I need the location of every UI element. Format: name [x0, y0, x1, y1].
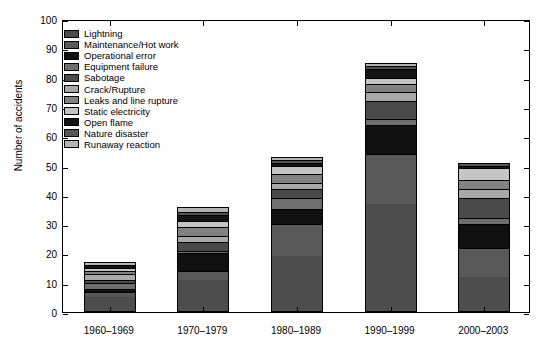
- y-tick-mark: [524, 80, 529, 81]
- chart-figure: Number of accidents 01020304050607080901…: [0, 0, 546, 348]
- x-tick-mark: [391, 21, 392, 26]
- legend-label: Lightning: [84, 28, 123, 39]
- legend-swatch-icon: [64, 118, 79, 126]
- legend-item: Sabotage: [64, 72, 179, 83]
- legend-item: Leaks and line rupture: [64, 95, 179, 106]
- bar-outline: [365, 63, 417, 312]
- bar-outline: [84, 262, 136, 312]
- y-tick-label: 20: [0, 249, 62, 260]
- legend-swatch-icon: [64, 63, 79, 71]
- y-tick-mark: [63, 197, 68, 198]
- y-tick-mark: [524, 168, 529, 169]
- x-tick-mark: [110, 21, 111, 26]
- x-tick-label: 1980–1989: [271, 325, 321, 336]
- y-tick-mark: [524, 50, 529, 51]
- legend-label: Open flame: [84, 117, 133, 128]
- y-tick-label: 30: [0, 220, 62, 231]
- legend-label: Operational error: [84, 50, 156, 61]
- x-tick-mark: [203, 307, 204, 312]
- y-tick-mark: [63, 285, 68, 286]
- x-tick-label: 1960–1969: [84, 325, 134, 336]
- legend-label: Maintenance/Hot work: [84, 39, 179, 50]
- y-tick-mark: [524, 138, 529, 139]
- legend-item: Static electricity: [64, 106, 179, 117]
- y-tick-mark: [63, 314, 68, 315]
- legend: LightningMaintenance/Hot workOperational…: [64, 28, 179, 150]
- legend-label: Leaks and line rupture: [84, 95, 178, 106]
- y-tick-mark: [524, 314, 529, 315]
- x-tick-mark: [297, 307, 298, 312]
- y-tick-label: 90: [0, 44, 62, 55]
- y-tick-label: 10: [0, 278, 62, 289]
- legend-swatch-icon: [64, 41, 79, 49]
- x-tick-mark: [110, 307, 111, 312]
- legend-item: Equipment failure: [64, 61, 179, 72]
- x-tick-mark: [203, 21, 204, 26]
- legend-item: Runaway reaction: [64, 139, 179, 150]
- y-tick-mark: [524, 226, 529, 227]
- y-tick-mark: [524, 285, 529, 286]
- y-tick-mark: [63, 255, 68, 256]
- y-tick-label: 60: [0, 132, 62, 143]
- y-tick-mark: [524, 255, 529, 256]
- legend-label: Equipment failure: [84, 61, 158, 72]
- legend-swatch-icon: [64, 140, 79, 148]
- y-tick-label: 0: [0, 308, 62, 319]
- legend-label: Static electricity: [84, 106, 150, 117]
- y-tick-mark: [524, 21, 529, 22]
- y-tick-mark: [524, 197, 529, 198]
- legend-item: Open flame: [64, 117, 179, 128]
- y-tick-mark: [63, 226, 68, 227]
- legend-swatch-icon: [64, 74, 79, 82]
- legend-label: Nature disaster: [84, 128, 148, 139]
- legend-swatch-icon: [64, 85, 79, 93]
- y-tick-mark: [63, 168, 68, 169]
- legend-item: Crack/Rupture: [64, 83, 179, 94]
- legend-label: Sabotage: [84, 72, 125, 83]
- x-tick-mark: [484, 307, 485, 312]
- legend-item: Maintenance/Hot work: [64, 39, 179, 50]
- x-tick-mark: [391, 307, 392, 312]
- legend-label: Runaway reaction: [84, 139, 160, 150]
- x-tick-label: 1970–1979: [177, 325, 227, 336]
- legend-swatch-icon: [64, 52, 79, 60]
- y-tick-label: 50: [0, 161, 62, 172]
- legend-swatch-icon: [64, 107, 79, 115]
- legend-item: Operational error: [64, 50, 179, 61]
- legend-item: Lightning: [64, 28, 179, 39]
- legend-label: Crack/Rupture: [84, 84, 145, 95]
- y-tick-label: 100: [0, 15, 62, 26]
- y-tick-label: 80: [0, 73, 62, 84]
- x-tick-label: 1990–1999: [365, 325, 415, 336]
- bar-outline: [177, 207, 229, 312]
- legend-swatch-icon: [64, 129, 79, 137]
- legend-item: Nature disaster: [64, 128, 179, 139]
- legend-swatch-icon: [64, 96, 79, 104]
- x-tick-label: 2000–2003: [458, 325, 508, 336]
- bar-outline: [458, 163, 510, 312]
- x-tick-mark: [484, 21, 485, 26]
- legend-swatch-icon: [64, 30, 79, 38]
- y-tick-label: 70: [0, 102, 62, 113]
- y-tick-mark: [524, 109, 529, 110]
- x-tick-mark: [297, 21, 298, 26]
- y-tick-label: 40: [0, 190, 62, 201]
- bar-outline: [271, 157, 323, 312]
- y-tick-mark: [63, 21, 68, 22]
